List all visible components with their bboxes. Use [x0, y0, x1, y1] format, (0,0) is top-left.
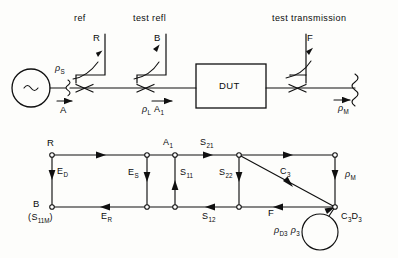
sfg-node-A1: A1	[163, 138, 173, 149]
sfg-branch-C3D3: C3D3	[341, 212, 362, 223]
header-ref: ref	[74, 14, 86, 23]
sfg-node-B-alt: (S11M)	[28, 213, 53, 224]
sfg-nodes	[50, 153, 338, 210]
header-test-transmission: test transmission	[272, 14, 346, 23]
figure-vector-graphics	[0, 0, 398, 258]
port-label-F: F	[307, 33, 313, 43]
sfg-branch-rhoM: ρM	[345, 170, 356, 181]
sfg-self-loop	[302, 214, 338, 250]
header-test-refl: test refl	[133, 14, 166, 23]
sfg-branch-S11: S11	[180, 168, 193, 179]
sfg-branch-ED: ED	[57, 167, 68, 178]
sfg-arrowheads	[49, 152, 339, 214]
label-A: A	[60, 105, 67, 115]
coupler-test-refl	[134, 34, 166, 92]
sfg-loop-label: ρD3ρ3	[274, 226, 300, 237]
sfg-node-B: B	[33, 199, 40, 209]
dut-label: DUT	[219, 81, 240, 91]
port-label-B: B	[154, 33, 161, 43]
sfg-branch-S12: S12	[202, 212, 215, 223]
rho-m-termination	[352, 74, 358, 106]
sfg-branch-C3: C3	[280, 167, 290, 178]
port-label-R: R	[93, 33, 100, 43]
label-rho-L-A1: ρLA1	[142, 105, 164, 116]
sfg-branch-ES: ES	[128, 168, 139, 179]
sfg-branch-S22: S22	[219, 168, 232, 179]
sfg-node-F: F	[268, 208, 274, 218]
signal-source-circle	[12, 69, 50, 107]
figure-canvas: ref test refl test transmission R B F ρS…	[0, 0, 398, 258]
rho-s-squiggle	[66, 80, 70, 96]
sfg-node-R: R	[47, 138, 54, 148]
label-rho-M-load: ρM	[338, 104, 349, 115]
sfg-branch-ER: ER	[101, 212, 112, 223]
label-rho-s: ρS	[55, 64, 65, 75]
coupler-ref	[73, 34, 105, 92]
sfg-branch-S21: S21	[200, 138, 213, 149]
